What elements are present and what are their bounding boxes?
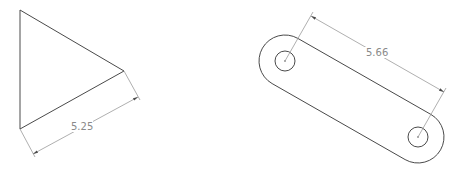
extension-line <box>285 12 313 61</box>
triangle-dimension[interactable]: 5.25 <box>20 71 140 157</box>
arrowhead-icon <box>311 16 316 20</box>
extension-line <box>20 129 35 157</box>
arrowhead-icon <box>33 150 38 154</box>
drawing-canvas: 5.25 5.66 <box>0 0 459 170</box>
arrowhead-icon <box>439 88 444 92</box>
extension-line <box>124 71 140 100</box>
slot-dimension[interactable]: 5.66 <box>285 12 446 137</box>
arrowhead-icon <box>133 97 138 101</box>
dimension-value[interactable]: 5.66 <box>366 47 388 58</box>
dimension-value[interactable]: 5.25 <box>71 121 93 132</box>
slot-outline[interactable] <box>259 35 444 163</box>
triangle-shape[interactable] <box>20 10 124 129</box>
triangle-outline[interactable] <box>20 10 124 129</box>
slot-shape[interactable] <box>259 35 444 163</box>
extension-line <box>418 88 446 137</box>
